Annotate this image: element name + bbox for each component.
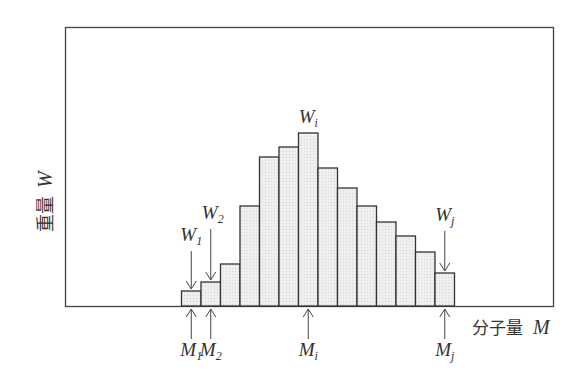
annotation-label: Wi xyxy=(299,106,318,130)
histogram-bar xyxy=(201,282,221,306)
molecular-weight-distribution-histogram: W1W2WiWjM1M2MiMj 重量 W 分子量 M xyxy=(0,0,586,376)
annotation-label: W2 xyxy=(202,202,224,226)
histogram-bar xyxy=(435,273,455,306)
x-axis-label-symbol: M xyxy=(532,316,551,338)
histogram-bar xyxy=(416,252,436,306)
annotation-label: M2 xyxy=(199,339,222,363)
y-axis-label-text: 重量 xyxy=(35,196,56,232)
x-axis-label: 分子量 M xyxy=(472,316,551,338)
y-axis-label-symbol: W xyxy=(34,169,56,188)
y-axis-label: 重量 W xyxy=(34,169,56,232)
histogram-bar xyxy=(338,188,358,306)
histogram-bar xyxy=(318,168,338,306)
histogram-bar xyxy=(299,133,319,306)
annotation-label: M1 xyxy=(179,339,202,363)
x-axis-label-text: 分子量 xyxy=(472,318,523,338)
annotation-label: Mi xyxy=(298,339,318,363)
annotation-label: Mj xyxy=(434,339,455,363)
histogram-bar xyxy=(377,222,397,306)
histogram-bar xyxy=(221,264,241,306)
histogram-bar xyxy=(396,236,416,306)
histogram-bar xyxy=(240,206,260,306)
annotation-label: W1 xyxy=(180,224,202,248)
histogram-bar xyxy=(357,206,377,306)
histogram-bar xyxy=(182,291,202,306)
histogram-bar xyxy=(279,147,299,306)
annotation-label: Wj xyxy=(435,204,455,228)
histogram-bar xyxy=(260,157,280,306)
